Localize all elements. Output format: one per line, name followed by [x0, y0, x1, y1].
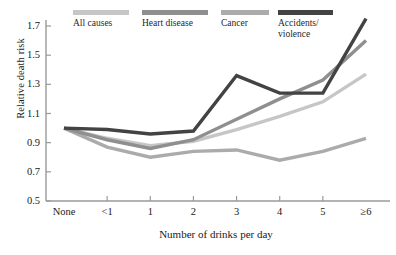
x-tick-label: None: [44, 206, 84, 217]
x-tick-label: ≥6: [346, 206, 386, 217]
x-tick-label: <1: [87, 206, 127, 217]
x-tick-label: 5: [303, 206, 343, 217]
chart-figure: All causes Heart disease Cancer Accident…: [0, 0, 396, 255]
x-tick-label: 1: [130, 206, 170, 217]
x-axis-title: Number of drinks per day: [64, 228, 368, 240]
data-line-accidents-violence: [64, 19, 366, 134]
x-tick-label: 3: [217, 206, 257, 217]
data-line-cancer: [64, 128, 366, 160]
data-line-all-causes: [64, 74, 366, 145]
x-tick-label: 2: [173, 206, 213, 217]
x-tick-label: 4: [260, 206, 300, 217]
